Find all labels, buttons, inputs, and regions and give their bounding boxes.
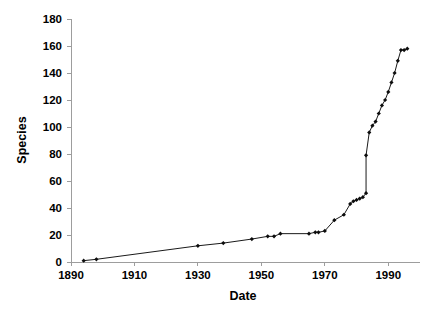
data-point-marker <box>380 103 384 107</box>
data-point-marker <box>196 244 200 248</box>
y-tick-label: 140 <box>43 67 62 79</box>
x-tick-labels: 189019101930195019701990 <box>58 269 401 281</box>
line-chart-svg: 020406080100120140160180 189019101930195… <box>0 0 436 313</box>
data-point-marker <box>396 59 400 63</box>
series-markers <box>82 47 410 263</box>
x-tick-label: 1990 <box>375 269 401 281</box>
y-tick-label: 20 <box>49 229 62 241</box>
x-tick-label: 1970 <box>312 269 338 281</box>
data-point-marker <box>386 90 390 94</box>
y-axis: 020406080100120140160180 <box>43 13 71 268</box>
x-tick-marks <box>71 262 388 266</box>
data-point-marker <box>272 234 276 238</box>
y-tick-label: 120 <box>43 94 62 106</box>
y-tick-label: 60 <box>49 175 62 187</box>
data-point-marker <box>266 234 270 238</box>
data-point-marker <box>367 130 371 134</box>
data-point-marker <box>278 232 282 236</box>
data-point-marker <box>307 232 311 236</box>
y-tick-marks <box>67 19 71 262</box>
y-tick-label: 0 <box>56 256 62 268</box>
data-point-marker <box>389 80 393 84</box>
data-point-marker <box>364 153 368 157</box>
y-axis-title: Species <box>15 116 29 163</box>
x-tick-label: 1930 <box>185 269 211 281</box>
data-point-marker <box>377 111 381 115</box>
series-line-cumulative-species <box>84 49 408 261</box>
data-point-marker <box>393 71 397 75</box>
chart-figure: 020406080100120140160180 189019101930195… <box>0 0 436 313</box>
x-tick-label: 1910 <box>122 269 148 281</box>
data-point-marker <box>342 213 346 217</box>
data-series <box>82 47 410 263</box>
data-point-marker <box>316 230 320 234</box>
y-tick-label: 100 <box>43 121 62 133</box>
x-tick-label: 1890 <box>58 269 84 281</box>
y-tick-label: 40 <box>49 202 62 214</box>
x-tick-label: 1950 <box>249 269 275 281</box>
data-point-marker <box>383 98 387 102</box>
y-tick-labels: 020406080100120140160180 <box>43 13 62 268</box>
x-axis: 189019101930195019701990 <box>58 262 420 281</box>
data-point-marker <box>94 257 98 261</box>
y-tick-label: 180 <box>43 13 62 25</box>
data-point-marker <box>250 237 254 241</box>
data-point-marker <box>221 241 225 245</box>
y-tick-label: 80 <box>49 148 62 160</box>
x-axis-title: Date <box>229 289 256 303</box>
y-tick-label: 160 <box>43 40 62 52</box>
